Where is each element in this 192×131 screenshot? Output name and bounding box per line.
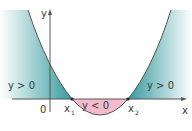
origin-label: 0 bbox=[40, 104, 46, 115]
parabola-diagram: y x 0 x 1 x 2 y > 0 y < 0 y > 0 bbox=[0, 0, 192, 131]
x-axis-label: x bbox=[182, 105, 188, 116]
root-label-x2: x bbox=[128, 103, 134, 114]
root-subscript-x2: 2 bbox=[135, 109, 139, 116]
y-axis-arrow-icon bbox=[48, 9, 52, 15]
root-point-x2 bbox=[126, 97, 129, 100]
region-label-right: y > 0 bbox=[147, 80, 174, 91]
region-label-middle: y < 0 bbox=[82, 100, 109, 111]
y-axis-label: y bbox=[41, 8, 47, 19]
region-label-left: y > 0 bbox=[8, 80, 35, 91]
root-subscript-x1: 1 bbox=[71, 109, 75, 116]
root-point-x1 bbox=[70, 97, 73, 100]
root-label-x1: x bbox=[64, 103, 70, 114]
